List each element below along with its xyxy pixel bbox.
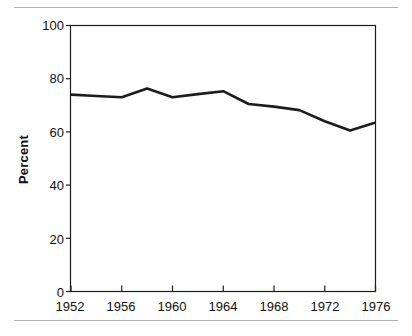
plot-area xyxy=(0,0,412,336)
series-line-percent xyxy=(71,89,376,131)
plot-frame xyxy=(71,26,376,292)
chart-figure: Percent 100 80 60 40 20 0 1952 1956 1960… xyxy=(0,0,412,336)
x-tick-marks xyxy=(71,286,376,292)
axis-frame xyxy=(71,26,376,292)
